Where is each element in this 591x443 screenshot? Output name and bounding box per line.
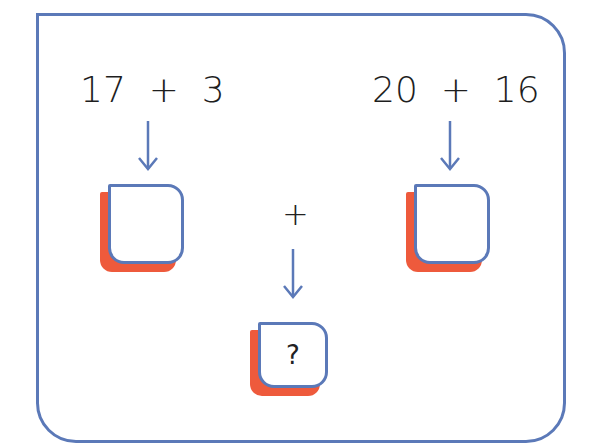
arrow-down-icon — [282, 248, 304, 300]
arrow-down-icon — [137, 120, 159, 172]
right-expression: 20 + 16 — [372, 72, 540, 108]
left-answer-input[interactable] — [108, 184, 184, 264]
result-placeholder[interactable]: ? — [258, 322, 328, 388]
right-answer-input[interactable] — [414, 184, 490, 264]
arrow-down-icon — [439, 120, 461, 172]
middle-plus-operator: + — [282, 198, 309, 230]
left-expression: 17 + 3 — [80, 72, 225, 108]
